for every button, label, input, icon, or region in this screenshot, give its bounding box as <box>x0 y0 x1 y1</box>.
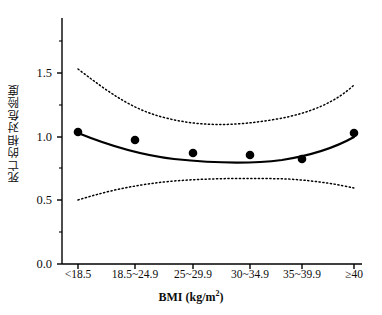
ci-lower-curve <box>78 178 354 200</box>
fitted-risk-curve <box>78 133 354 163</box>
ci-upper-curve <box>78 69 354 125</box>
data-point-2 <box>189 149 198 158</box>
x-axis-title: BMI (kg/m2) <box>0 289 382 305</box>
x-tick-label-1: 18.5~24.9 <box>112 268 158 280</box>
data-point-5 <box>350 129 359 138</box>
data-point-0 <box>74 128 83 137</box>
x-tick-label-3: 30~34.9 <box>231 268 269 280</box>
x-tick-label-0: <18.5 <box>65 268 92 280</box>
x-axis-title-main: BMI (kg/m <box>159 290 216 304</box>
y-tick-label-1: 0.5 <box>18 194 52 206</box>
x-tick-label-2: 25~29.9 <box>174 268 212 280</box>
x-tick-label-4: 35~39.9 <box>283 268 321 280</box>
data-point-1 <box>131 136 140 145</box>
data-point-4 <box>298 155 307 164</box>
data-points <box>74 128 359 164</box>
x-tick-label-5: ≥40 <box>345 268 363 280</box>
plot-svg <box>62 18 362 268</box>
y-tick-label-3: 1.5 <box>18 67 52 79</box>
x-axis-title-tail: ) <box>220 290 224 304</box>
y-tick-label-2: 1.0 <box>18 131 52 143</box>
relative-risk-chart: 死亡的相对危险度 0.0 0.5 1.0 1.5 <box>0 0 382 315</box>
y-tick-label-0: 0.0 <box>18 258 52 270</box>
plot-area <box>62 18 362 264</box>
data-point-3 <box>246 151 255 160</box>
